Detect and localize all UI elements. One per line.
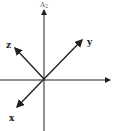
x-vector (17, 79, 44, 107)
axes-diagram: A2 y z x (0, 0, 116, 131)
x-label: x (9, 113, 15, 123)
z-vector (15, 48, 44, 79)
z-label: z (6, 40, 11, 50)
y-vector (44, 40, 82, 79)
vertical-axis-label: A2 (39, 1, 48, 9)
y-label: y (86, 37, 93, 47)
